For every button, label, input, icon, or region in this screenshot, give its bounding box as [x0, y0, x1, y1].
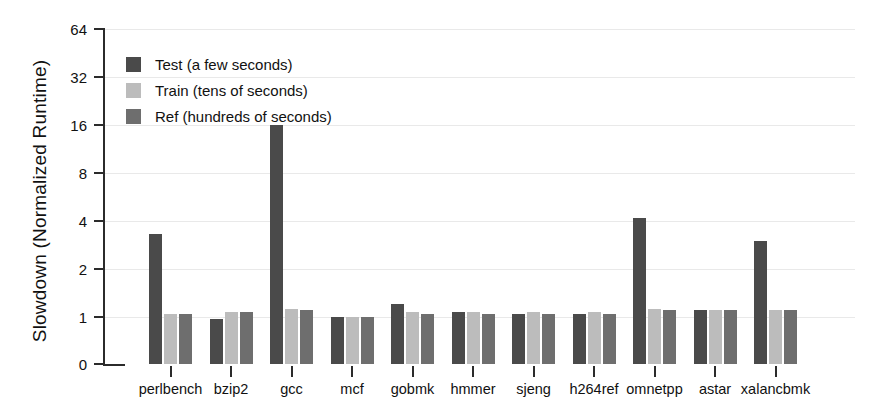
bar-train [588, 312, 601, 364]
x-tick-mark [412, 366, 414, 377]
bar-ref [240, 312, 253, 364]
legend-label: Ref (hundreds of seconds) [155, 108, 332, 125]
y-axis-base-cap [103, 364, 125, 366]
y-tick-mark: 32 [94, 76, 105, 78]
y-tick-label: 8 [79, 165, 87, 182]
bar-ref [724, 310, 737, 364]
bar-ref [361, 317, 374, 364]
bar-test [573, 314, 586, 364]
bar-train [164, 314, 177, 364]
bar-test [512, 314, 525, 364]
legend-swatch-train [126, 83, 141, 98]
bar-test [391, 304, 404, 364]
x-tick-mark [654, 366, 656, 377]
x-tick-label: omnetpp [626, 381, 682, 397]
bar-train [527, 312, 540, 364]
bar-train [225, 312, 238, 364]
bar-ref [179, 314, 192, 364]
bar-test [694, 310, 707, 364]
legend-swatch-ref [126, 109, 141, 124]
bar-test [754, 241, 767, 364]
x-tick-mark [472, 366, 474, 377]
bar-group [573, 28, 616, 364]
y-tick-mark: 1 [94, 316, 105, 318]
legend-label: Train (tens of seconds) [155, 82, 308, 99]
y-tick-label: 4 [79, 213, 87, 230]
legend-label: Test (a few seconds) [155, 56, 293, 73]
x-tick-mark [170, 366, 172, 377]
x-tick-mark [351, 366, 353, 377]
bar-ref [663, 310, 676, 364]
y-tick-label: 32 [70, 69, 87, 86]
bar-test [149, 234, 162, 364]
bar-ref [542, 314, 555, 364]
x-tick-mark [291, 366, 293, 377]
bar-train [709, 310, 722, 364]
bar-group [512, 28, 555, 364]
legend: Test (a few seconds)Train (tens of secon… [126, 52, 426, 130]
bar-train [285, 309, 298, 364]
bar-group [694, 28, 737, 364]
legend-item: Train (tens of seconds) [126, 78, 426, 102]
chart-figure: Slowdown (Normalized Runtime) 0124816326… [0, 0, 880, 416]
y-axis-title: Slowdown (Normalized Runtime) [29, 11, 51, 391]
bar-test [452, 312, 465, 364]
bar-train [769, 310, 782, 364]
y-tick-mark: 4 [94, 220, 105, 222]
bar-test [331, 317, 344, 364]
legend-item: Ref (hundreds of seconds) [126, 104, 426, 128]
x-tick-label: sjeng [516, 381, 551, 397]
x-tick-label: perlbench [139, 381, 203, 397]
x-tick-mark [714, 366, 716, 377]
bar-test [633, 218, 646, 364]
legend-item: Test (a few seconds) [126, 52, 426, 76]
legend-swatch-test [126, 57, 141, 72]
y-tick-mark: 64 [94, 28, 105, 30]
x-tick-label: xalancbmk [741, 381, 810, 397]
x-tick-label: bzip2 [214, 381, 249, 397]
x-tick-label: astar [699, 381, 731, 397]
bar-train [648, 309, 661, 364]
bar-ref [300, 310, 313, 364]
y-tick-label: 16 [70, 117, 87, 134]
bar-train [406, 312, 419, 364]
y-tick-mark: 8 [94, 172, 105, 174]
y-tick-mark: 0 [94, 363, 105, 365]
x-tick-mark [230, 366, 232, 377]
y-tick-label: 0 [79, 356, 87, 373]
x-tick-mark [775, 366, 777, 377]
y-tick-mark: 2 [94, 268, 105, 270]
x-tick-label: gobmk [391, 381, 435, 397]
bar-ref [421, 314, 434, 364]
x-tick-label: mcf [340, 381, 363, 397]
bar-test [210, 319, 223, 364]
x-tick-mark [533, 366, 535, 377]
x-tick-label: hmmer [450, 381, 495, 397]
bar-group [633, 28, 676, 364]
bar-train [467, 312, 480, 364]
bar-train [346, 317, 359, 364]
y-tick-label: 64 [70, 21, 87, 38]
x-tick-label: h264ref [569, 381, 618, 397]
bar-group [754, 28, 797, 364]
y-tick-label: 2 [79, 261, 87, 278]
bar-ref [603, 314, 616, 364]
x-tick-mark [593, 366, 595, 377]
bar-test [270, 125, 283, 364]
bar-group [452, 28, 495, 364]
x-tick-label: gcc [280, 381, 303, 397]
y-tick-label: 1 [79, 309, 87, 326]
bar-ref [784, 310, 797, 364]
bar-ref [482, 314, 495, 364]
y-tick-mark: 16 [94, 124, 105, 126]
